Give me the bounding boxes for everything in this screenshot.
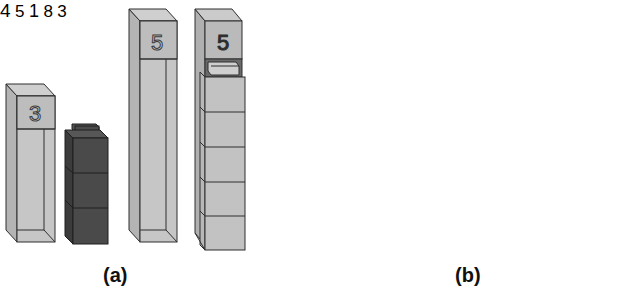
caption-b: (b) [455,264,481,287]
rod-label-5-filled: 5 [217,30,229,55]
number-rod-tray-3: 3 [6,84,55,242]
rod-label-5: 5 [151,30,163,55]
number-rod-tray-5-empty: 5 [129,9,177,242]
panel-a: 3 5 [6,9,245,250]
caption-a: (a) [103,264,127,287]
math-manipulatives-diagram: 3 5 [0,0,629,300]
rod-label-3: 3 [29,101,41,126]
dark-cube-stack-3 [65,124,108,244]
number-rod-tray-5-filled: 5 [195,9,245,250]
